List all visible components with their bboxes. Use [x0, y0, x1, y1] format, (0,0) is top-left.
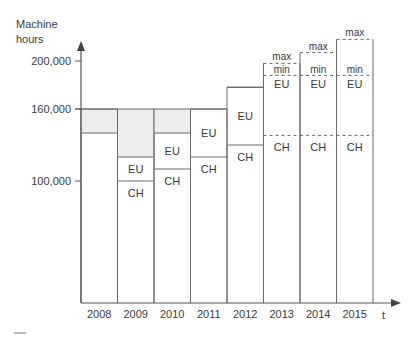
min-label: min	[274, 64, 290, 75]
bar-2014: maxminEUCH	[300, 41, 337, 303]
bar-2015: maxminEUCH	[337, 27, 374, 303]
bar-2011: EUCH	[191, 109, 228, 303]
x-tick-label: 2008	[87, 308, 111, 320]
eu-label: EU	[311, 78, 326, 90]
idle-capacity-segment	[81, 109, 118, 133]
x-tick-label: 2009	[124, 308, 148, 320]
x-tick-label: 2010	[160, 308, 184, 320]
y-tick-label: 160,000	[31, 103, 71, 115]
max-label: max	[272, 51, 291, 62]
bars-group: EUCHEUCHEUCHEUCHmaxminEUCHmaxminEUCHmaxm…	[75, 27, 373, 303]
ch-label: CH	[347, 141, 363, 153]
y-ticks-group: 100,000160,000200,000	[31, 55, 81, 187]
eu-label: EU	[238, 110, 253, 122]
bar-2009: EUCH	[118, 109, 155, 303]
bar-2012: EUCH	[227, 87, 264, 303]
x-axis-arrow-icon	[391, 299, 401, 307]
x-ticks-group: 20082009201020112012201320142015	[87, 308, 367, 320]
bar-2010: EUCH	[154, 109, 191, 303]
y-axis-title-line2: hours	[16, 33, 44, 45]
min-label: min	[347, 64, 363, 75]
eu-label: EU	[128, 163, 143, 175]
eu-label: EU	[165, 145, 180, 157]
max-label: max	[345, 27, 364, 38]
ch-label: CH	[237, 151, 253, 163]
idle-capacity-segment	[118, 109, 155, 157]
eu-label: EU	[347, 78, 362, 90]
machine-hours-chart: EUCHEUCHEUCHEUCHmaxminEUCHmaxminEUCHmaxm…	[0, 0, 417, 337]
x-axis-title: t	[382, 309, 385, 321]
bar-2008	[81, 109, 118, 303]
ch-label: CH	[164, 175, 180, 187]
max-label: max	[309, 41, 328, 52]
bar-2013: maxminEUCH	[264, 51, 301, 303]
min-label: min	[310, 64, 326, 75]
y-tick-label: 100,000	[31, 175, 71, 187]
y-axis-title-line1: Machine	[16, 18, 58, 30]
ch-label: CH	[201, 163, 217, 175]
x-tick-label: 2011	[197, 308, 221, 320]
ch-label: CH	[274, 141, 290, 153]
eu-label: EU	[274, 78, 289, 90]
y-axis-arrow-icon	[77, 41, 85, 51]
y-tick-label: 200,000	[31, 55, 71, 67]
x-tick-label: 2015	[343, 308, 367, 320]
x-tick-label: 2014	[306, 308, 330, 320]
idle-capacity-segment	[154, 109, 191, 133]
ch-label: CH	[310, 141, 326, 153]
x-tick-label: 2012	[233, 308, 257, 320]
ch-label: CH	[128, 187, 144, 199]
x-tick-label: 2013	[270, 308, 294, 320]
eu-label: EU	[201, 127, 216, 139]
